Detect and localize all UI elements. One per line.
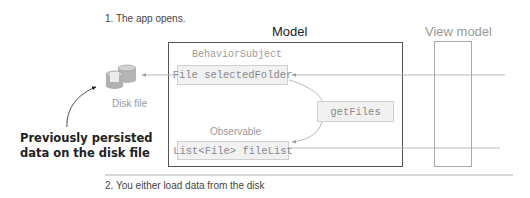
database-icon [106,65,136,89]
diagram-connectors [0,0,530,198]
